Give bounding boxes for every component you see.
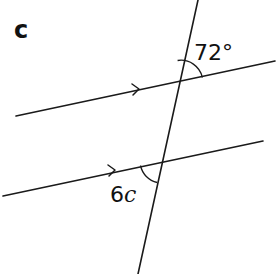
- angle-variable: c: [124, 182, 136, 207]
- angle-coefficient: 6: [110, 182, 124, 207]
- angle-label-6c: 6c: [110, 182, 136, 207]
- parallel-lines-diagram: c 72° 6c: [0, 0, 276, 274]
- upper-parallel-line: [16, 61, 275, 116]
- transversal-line: [138, 0, 198, 274]
- angle-label-72: 72°: [194, 40, 233, 65]
- part-label: c: [14, 16, 28, 44]
- parallel-arrow-icon-upper: [132, 84, 139, 95]
- angle-arc-6c: [141, 166, 158, 183]
